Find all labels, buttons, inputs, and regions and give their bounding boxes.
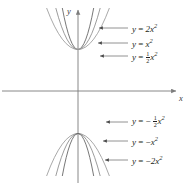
- label-y-neg-half-x2: y = − 12x2: [132, 115, 165, 129]
- label-y-neg-2x2: y = −2x2: [132, 155, 162, 166]
- leader-lines: [98, 28, 128, 160]
- figure-canvas: [0, 0, 192, 185]
- y-axis-label: y: [67, 7, 71, 16]
- parabola-family-figure: y x y = 2x2 y = x2 y = 12x2 y = − 12x2 y…: [0, 0, 192, 185]
- label-y-neg-x2: y = −x2: [132, 136, 158, 147]
- x-axis-label: x: [179, 94, 183, 103]
- label-y-x2: y = x2: [132, 38, 153, 49]
- label-y-2x2: y = 2x2: [132, 23, 157, 34]
- label-y-half-x2: y = 12x2: [132, 51, 157, 65]
